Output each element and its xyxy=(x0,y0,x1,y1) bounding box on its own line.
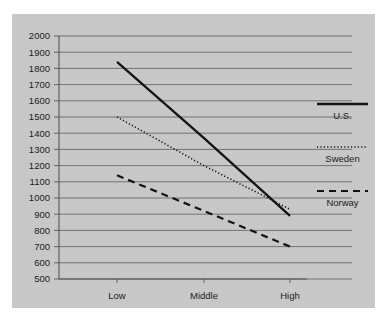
ytick-marks-group xyxy=(54,36,59,279)
series-line-sweden xyxy=(117,117,290,209)
legend-label: Norway xyxy=(326,197,358,208)
xtick-labels-group: LowMiddleHigh xyxy=(108,290,299,301)
line-chart-figure: 2000190018001700160015001400130012001100… xyxy=(0,0,389,328)
ytick-labels-group: 2000190018001700160015001400130012001100… xyxy=(29,30,50,284)
ytick-label: 1200 xyxy=(29,160,50,171)
ytick-label: 1500 xyxy=(29,111,50,122)
ytick-label: 1000 xyxy=(29,192,50,203)
ytick-label: 1600 xyxy=(29,95,50,106)
ytick-label: 1300 xyxy=(29,144,50,155)
legend-label: Sweden xyxy=(325,153,359,164)
chart-panel: 2000190018001700160015001400130012001100… xyxy=(12,14,375,308)
series-line-norway xyxy=(117,175,290,246)
gridlines-group xyxy=(59,36,352,279)
xtick-marks-group xyxy=(117,279,290,283)
ytick-label: 500 xyxy=(34,273,50,284)
legend-label: U.S. xyxy=(333,110,351,121)
plot-area: 2000190018001700160015001400130012001100… xyxy=(12,14,375,308)
ytick-label: 1400 xyxy=(29,128,50,139)
ytick-label: 800 xyxy=(34,225,50,236)
ytick-label: 1100 xyxy=(30,176,50,187)
ytick-label: 2000 xyxy=(29,30,50,41)
ytick-label: 900 xyxy=(34,209,50,220)
data-series-group xyxy=(117,62,290,247)
xtick-label: Middle xyxy=(190,290,218,301)
xtick-label: High xyxy=(280,290,300,301)
xtick-label: Low xyxy=(108,290,126,301)
ytick-label: 1900 xyxy=(29,47,50,58)
ytick-label: 700 xyxy=(34,241,50,252)
chart-legend: U.S.SwedenNorway xyxy=(317,104,368,208)
ytick-label: 1700 xyxy=(29,79,50,90)
ytick-label: 1800 xyxy=(29,63,50,74)
ytick-label: 600 xyxy=(34,257,50,268)
